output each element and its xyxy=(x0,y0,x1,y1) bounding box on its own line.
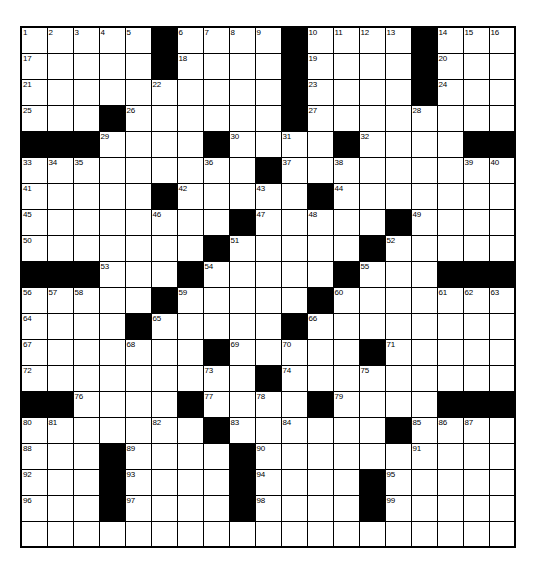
crossword-cell[interactable]: 52 xyxy=(385,235,411,261)
crossword-cell[interactable] xyxy=(437,105,463,131)
crossword-cell[interactable] xyxy=(47,443,73,469)
crossword-cell[interactable] xyxy=(99,209,125,235)
crossword-cell[interactable] xyxy=(73,495,99,521)
crossword-cell[interactable] xyxy=(47,183,73,209)
crossword-cell[interactable] xyxy=(489,365,515,391)
crossword-cell[interactable] xyxy=(359,79,385,105)
crossword-cell[interactable] xyxy=(47,313,73,339)
crossword-cell[interactable] xyxy=(151,339,177,365)
crossword-cell[interactable]: 29 xyxy=(99,131,125,157)
crossword-cell[interactable] xyxy=(73,105,99,131)
crossword-cell[interactable] xyxy=(177,209,203,235)
crossword-cell[interactable]: 61 xyxy=(437,287,463,313)
crossword-cell[interactable] xyxy=(359,417,385,443)
crossword-cell[interactable]: 37 xyxy=(281,157,307,183)
crossword-cell[interactable]: 25 xyxy=(21,105,47,131)
crossword-cell[interactable] xyxy=(255,521,281,547)
crossword-cell[interactable] xyxy=(177,235,203,261)
crossword-cell[interactable] xyxy=(255,79,281,105)
crossword-cell[interactable] xyxy=(229,261,255,287)
crossword-cell[interactable] xyxy=(359,443,385,469)
crossword-cell[interactable] xyxy=(151,261,177,287)
crossword-cell[interactable]: 51 xyxy=(229,235,255,261)
crossword-cell[interactable]: 12 xyxy=(359,27,385,53)
crossword-cell[interactable]: 67 xyxy=(21,339,47,365)
crossword-cell[interactable] xyxy=(177,131,203,157)
crossword-cell[interactable]: 74 xyxy=(281,365,307,391)
crossword-cell[interactable] xyxy=(333,521,359,547)
crossword-cell[interactable] xyxy=(437,521,463,547)
crossword-cell[interactable] xyxy=(463,443,489,469)
crossword-cell[interactable] xyxy=(333,443,359,469)
crossword-cell[interactable]: 18 xyxy=(177,53,203,79)
crossword-cell[interactable]: 57 xyxy=(47,287,73,313)
crossword-cell[interactable] xyxy=(99,365,125,391)
crossword-grid[interactable]: 1234567891011121314151617181920212223242… xyxy=(20,26,516,548)
crossword-cell[interactable] xyxy=(177,443,203,469)
crossword-cell[interactable] xyxy=(437,131,463,157)
crossword-cell[interactable] xyxy=(463,183,489,209)
crossword-cell[interactable]: 35 xyxy=(73,157,99,183)
crossword-cell[interactable] xyxy=(489,53,515,79)
crossword-cell[interactable] xyxy=(203,209,229,235)
crossword-cell[interactable]: 23 xyxy=(307,79,333,105)
crossword-cell[interactable] xyxy=(489,443,515,469)
crossword-cell[interactable] xyxy=(177,495,203,521)
crossword-cell[interactable]: 38 xyxy=(333,157,359,183)
crossword-cell[interactable]: 95 xyxy=(385,469,411,495)
crossword-cell[interactable] xyxy=(125,53,151,79)
crossword-cell[interactable] xyxy=(47,79,73,105)
crossword-cell[interactable]: 98 xyxy=(255,495,281,521)
crossword-cell[interactable]: 53 xyxy=(99,261,125,287)
crossword-cell[interactable] xyxy=(177,105,203,131)
crossword-cell[interactable]: 31 xyxy=(281,131,307,157)
crossword-cell[interactable] xyxy=(21,521,47,547)
crossword-cell[interactable] xyxy=(151,157,177,183)
crossword-cell[interactable]: 85 xyxy=(411,417,437,443)
crossword-cell[interactable] xyxy=(385,157,411,183)
crossword-cell[interactable]: 11 xyxy=(333,27,359,53)
crossword-cell[interactable]: 82 xyxy=(151,417,177,443)
crossword-cell[interactable] xyxy=(151,365,177,391)
crossword-cell[interactable] xyxy=(177,157,203,183)
crossword-cell[interactable]: 94 xyxy=(255,469,281,495)
crossword-cell[interactable] xyxy=(463,209,489,235)
crossword-cell[interactable] xyxy=(203,53,229,79)
crossword-cell[interactable]: 28 xyxy=(411,105,437,131)
crossword-cell[interactable] xyxy=(463,521,489,547)
crossword-cell[interactable] xyxy=(307,157,333,183)
crossword-cell[interactable] xyxy=(151,495,177,521)
crossword-cell[interactable] xyxy=(229,53,255,79)
crossword-cell[interactable]: 15 xyxy=(463,27,489,53)
crossword-cell[interactable] xyxy=(411,495,437,521)
crossword-cell[interactable] xyxy=(411,339,437,365)
crossword-cell[interactable] xyxy=(333,105,359,131)
crossword-cell[interactable] xyxy=(125,521,151,547)
crossword-cell[interactable] xyxy=(281,521,307,547)
crossword-cell[interactable] xyxy=(151,521,177,547)
crossword-cell[interactable]: 46 xyxy=(151,209,177,235)
crossword-cell[interactable] xyxy=(411,131,437,157)
crossword-cell[interactable]: 81 xyxy=(47,417,73,443)
crossword-cell[interactable] xyxy=(385,53,411,79)
crossword-cell[interactable]: 84 xyxy=(281,417,307,443)
crossword-cell[interactable]: 32 xyxy=(359,131,385,157)
crossword-cell[interactable]: 33 xyxy=(21,157,47,183)
crossword-cell[interactable] xyxy=(177,417,203,443)
crossword-cell[interactable]: 7 xyxy=(203,27,229,53)
crossword-cell[interactable]: 77 xyxy=(203,391,229,417)
crossword-cell[interactable]: 87 xyxy=(463,417,489,443)
crossword-cell[interactable] xyxy=(281,469,307,495)
crossword-cell[interactable] xyxy=(385,105,411,131)
crossword-cell[interactable] xyxy=(333,495,359,521)
crossword-cell[interactable] xyxy=(333,313,359,339)
crossword-cell[interactable] xyxy=(203,469,229,495)
crossword-cell[interactable] xyxy=(333,469,359,495)
crossword-cell[interactable] xyxy=(73,339,99,365)
crossword-cell[interactable] xyxy=(229,157,255,183)
crossword-cell[interactable] xyxy=(489,339,515,365)
crossword-cell[interactable] xyxy=(255,235,281,261)
crossword-cell[interactable]: 88 xyxy=(21,443,47,469)
crossword-cell[interactable] xyxy=(281,209,307,235)
crossword-cell[interactable] xyxy=(281,261,307,287)
